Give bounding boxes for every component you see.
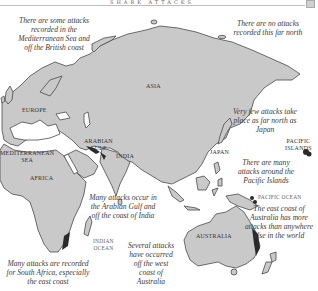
arctic-island xyxy=(151,20,157,24)
note-pacific-islands: There are many attacks around the Pacifi… xyxy=(234,158,298,185)
borneo-island xyxy=(196,176,210,190)
sumatra-island xyxy=(168,186,184,202)
label-mediterranean-line1: Mediterranean xyxy=(0,150,54,157)
java-island xyxy=(184,206,200,210)
label-europe: Europe xyxy=(22,107,47,114)
label-indian-ocean-line1: Indian xyxy=(93,238,114,245)
label-australia: Australia xyxy=(196,233,232,240)
philippines-island xyxy=(218,178,222,186)
label-arabian-gulf-line1: Arabian xyxy=(84,138,113,145)
label-mediterranean-sea: Mediterranean Sea xyxy=(0,150,54,164)
note-far-north: There are no attacks recorded this far n… xyxy=(228,19,308,37)
philippines-island xyxy=(214,162,220,174)
note-arabian-gulf: Many attacks occur in the Arabian Gulf a… xyxy=(88,193,158,220)
attack-zone-pacific-islands xyxy=(307,152,312,157)
note-japan: Very few attacks take place as far north… xyxy=(230,107,300,134)
label-pacific-ocean: Pacific Ocean xyxy=(258,194,302,201)
label-mediterranean-line2: Sea xyxy=(0,157,54,164)
label-indian-ocean: Indian Ocean xyxy=(93,238,114,252)
label-africa: Africa xyxy=(30,175,53,182)
label-arabian-gulf: Arabian Gulf xyxy=(84,138,113,152)
note-mediterranean: There are some attacks recorded in the M… xyxy=(14,16,94,52)
new-zealand-north-island xyxy=(270,252,276,262)
note-australia-east: The east coast of Australia has more att… xyxy=(243,204,315,240)
new-zealand-south-island xyxy=(262,262,272,274)
note-south-africa: Many attacks are recorded for South Afri… xyxy=(6,259,90,286)
label-pacific-islands-line2: Islands xyxy=(285,145,312,152)
label-pacific-islands: Pacific Islands xyxy=(285,138,312,152)
label-india: India xyxy=(116,153,134,160)
attack-zone-new-guinea xyxy=(250,196,254,200)
label-indian-ocean-line2: Ocean xyxy=(93,245,114,252)
arctic-island xyxy=(218,35,226,38)
sulawesi-island xyxy=(212,188,218,196)
label-arabian-gulf-line2: Gulf xyxy=(84,145,113,152)
note-australia-west: Several attacks have occurred off the we… xyxy=(125,241,177,286)
tasmania-island xyxy=(231,269,237,275)
label-asia: Asia xyxy=(146,83,161,90)
label-pacific-islands-line1: Pacific xyxy=(285,138,312,145)
label-japan: Japan xyxy=(210,149,229,156)
